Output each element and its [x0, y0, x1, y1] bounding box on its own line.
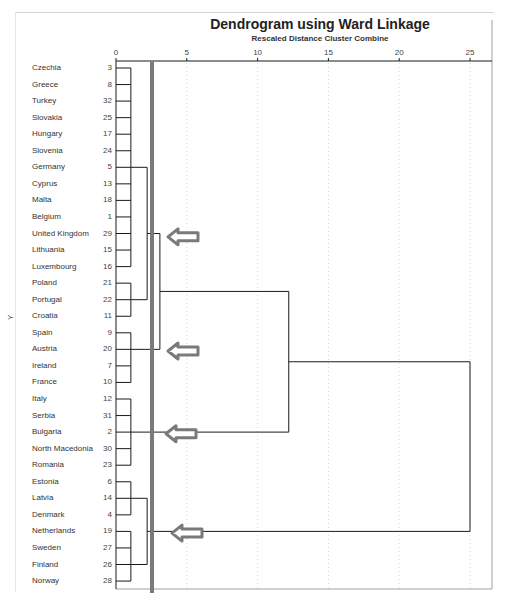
dendrogram-plot: 0510152025 — [0, 0, 508, 598]
x-axis-tick-label: 25 — [466, 48, 475, 57]
arrow-icon — [166, 426, 196, 442]
x-axis-tick-label: 0 — [114, 48, 119, 57]
x-axis-tick-label: 5 — [185, 48, 190, 57]
x-axis-tick-label: 10 — [253, 48, 262, 57]
arrow-icon — [168, 343, 198, 359]
x-axis-tick-label: 15 — [324, 48, 333, 57]
x-axis-tick-label: 20 — [395, 48, 404, 57]
arrow-icon — [168, 229, 198, 245]
